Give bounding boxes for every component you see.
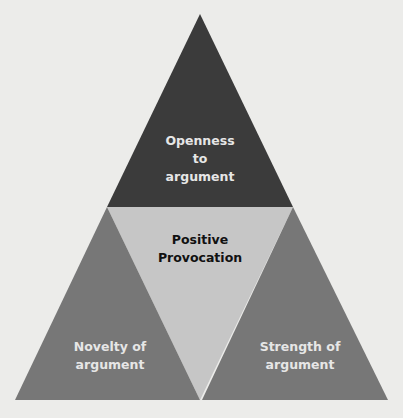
label-line: argument [240,356,360,374]
label-line: Provocation [130,249,270,267]
label-line: Novelty of [55,338,165,356]
label-openness: Openness to argument [140,132,260,186]
label-line: to [140,150,260,168]
label-novelty: Novelty of argument [55,338,165,374]
label-strength: Strength of argument [240,338,360,374]
label-line: Positive [130,231,270,249]
label-line: argument [140,168,260,186]
label-line: Strength of [240,338,360,356]
label-positive-provocation: Positive Provocation [130,231,270,267]
label-line: argument [55,356,165,374]
label-line: Openness [140,132,260,150]
